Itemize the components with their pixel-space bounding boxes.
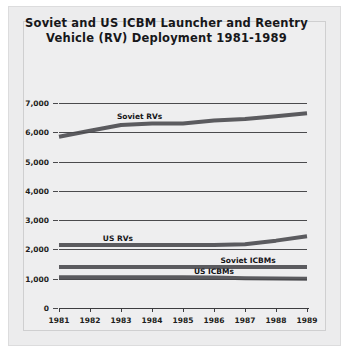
y-tick-dash-2000 xyxy=(53,249,58,250)
x-axis-line xyxy=(59,308,309,309)
x-axis-label-1985: 1985 xyxy=(166,316,200,325)
x-axis-label-1987: 1987 xyxy=(228,316,262,325)
gridline-1000 xyxy=(59,279,307,280)
series-label-us-rvs: US RVs xyxy=(103,234,133,243)
x-axis-label-1989: 1989 xyxy=(290,316,324,325)
y-axis-label-4000: 4,000 xyxy=(7,187,49,196)
x-axis-label-1988: 1988 xyxy=(259,316,293,325)
gridline-6000 xyxy=(59,132,307,133)
x-tick-1988 xyxy=(276,308,277,312)
series-lines xyxy=(59,103,307,308)
x-axis-label-1983: 1983 xyxy=(104,316,138,325)
x-tick-1985 xyxy=(183,308,184,312)
series-line-us-rvs xyxy=(59,236,307,245)
y-axis-label-0: 0 xyxy=(7,304,49,313)
gridline-3000 xyxy=(59,220,307,221)
x-tick-1983 xyxy=(121,308,122,312)
x-tick-1987 xyxy=(245,308,246,312)
y-tick-dash-5000 xyxy=(53,162,58,163)
x-tick-1986 xyxy=(214,308,215,312)
y-tick-dash-7000 xyxy=(53,103,58,104)
chart-figure: Soviet and US ICBM Launcher and Reentry … xyxy=(0,0,349,358)
y-tick-dash-6000 xyxy=(53,132,58,133)
y-tick-dash-0 xyxy=(53,308,58,309)
x-axis-label-1981: 1981 xyxy=(42,316,76,325)
gridline-5000 xyxy=(59,162,307,163)
x-tick-1981 xyxy=(59,308,60,312)
x-axis-label-1984: 1984 xyxy=(135,316,169,325)
x-tick-1989 xyxy=(307,308,308,312)
y-axis-label-7000: 7,000 xyxy=(7,99,49,108)
series-label-us-icbms: US ICBMs xyxy=(194,267,234,276)
plot-area xyxy=(59,103,307,308)
series-label-soviet-rvs: Soviet RVs xyxy=(117,112,162,121)
x-axis-label-1986: 1986 xyxy=(197,316,231,325)
y-tick-dash-1000 xyxy=(53,279,58,280)
x-tick-1982 xyxy=(90,308,91,312)
y-axis-label-2000: 2,000 xyxy=(7,245,49,254)
gridline-7000 xyxy=(59,103,307,104)
y-axis-label-1000: 1,000 xyxy=(7,275,49,284)
y-tick-dash-3000 xyxy=(53,220,58,221)
y-axis-label-3000: 3,000 xyxy=(7,216,49,225)
x-tick-1984 xyxy=(152,308,153,312)
y-tick-dash-4000 xyxy=(53,191,58,192)
series-label-soviet-icbms: Soviet ICBMs xyxy=(220,256,275,265)
chart-title-line-2: Vehicle (RV) Deployment 1981-1989 xyxy=(14,31,319,46)
x-axis-label-1982: 1982 xyxy=(73,316,107,325)
chart-title-line-1: Soviet and US ICBM Launcher and Reentry xyxy=(25,16,308,30)
y-axis-label-6000: 6,000 xyxy=(7,128,49,137)
y-axis-label-5000: 5,000 xyxy=(7,158,49,167)
gridline-4000 xyxy=(59,191,307,192)
gridline-2000 xyxy=(59,249,307,250)
chart-title: Soviet and US ICBM Launcher and Reentry … xyxy=(14,16,319,46)
